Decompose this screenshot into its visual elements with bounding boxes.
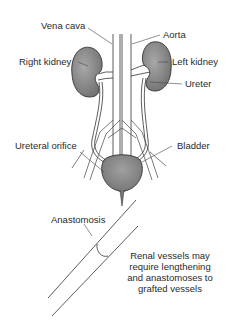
note-line: Renal vessels may <box>120 250 220 261</box>
bladder <box>102 155 143 192</box>
renal-vessels-note: Renal vessels may require lengthening an… <box>120 250 220 294</box>
label-ureter: Ureter <box>185 78 211 89</box>
note-line: require lengthening <box>120 261 220 272</box>
urethra <box>120 190 124 206</box>
label-vena-cava: Vena cava <box>41 20 85 31</box>
label-ureteral-orifice: Ureteral orifice <box>15 140 77 151</box>
label-left-kidney: Left kidney <box>172 56 218 67</box>
label-aorta: Aorta <box>163 29 186 40</box>
label-bladder: Bladder <box>177 140 210 151</box>
note-line: grafted vessels <box>120 283 220 294</box>
vena-cava <box>113 34 120 160</box>
label-anastomosis: Anastomosis <box>51 214 105 225</box>
renal-vessels <box>98 64 150 80</box>
left-kidney <box>142 42 171 91</box>
right-kidney <box>72 47 102 97</box>
note-line: and anastomoses to <box>120 272 220 283</box>
aorta <box>122 34 131 160</box>
label-right-kidney: Right kidney <box>19 56 71 67</box>
